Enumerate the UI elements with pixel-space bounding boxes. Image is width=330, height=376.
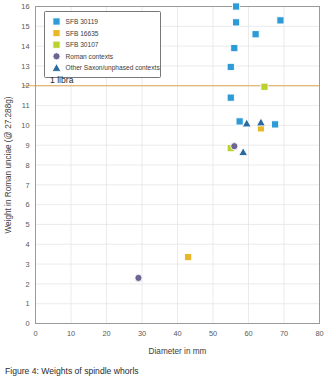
data-point xyxy=(239,148,248,156)
legend-marker xyxy=(53,30,60,37)
svg-text:0: 0 xyxy=(25,319,29,328)
legend-marker xyxy=(53,41,60,48)
svg-text:14: 14 xyxy=(21,42,29,51)
x-axis-title: Diameter in mm xyxy=(149,347,207,356)
data-point xyxy=(135,274,142,281)
svg-text:50: 50 xyxy=(209,329,217,338)
figure-caption: Figure 4: Weights of spindle whorls xyxy=(5,366,139,376)
legend-marker xyxy=(53,53,60,60)
data-point xyxy=(272,121,279,128)
svg-text:70: 70 xyxy=(280,329,288,338)
svg-text:6: 6 xyxy=(25,200,29,209)
svg-text:2: 2 xyxy=(25,280,29,289)
data-point xyxy=(231,45,238,52)
svg-text:3: 3 xyxy=(25,260,29,269)
y-axis-title: Weight in Roman unciae (@ 27.288g) xyxy=(4,96,13,233)
legend-label: SFB 30119 xyxy=(66,18,99,25)
legend-label: Roman contexts xyxy=(66,53,114,60)
data-point xyxy=(236,118,243,125)
svg-text:16: 16 xyxy=(21,2,29,11)
x-axis-tick-labels: 01020304050607080 xyxy=(33,329,323,338)
legend-marker xyxy=(53,18,60,25)
svg-text:80: 80 xyxy=(315,329,323,338)
svg-text:8: 8 xyxy=(25,161,29,170)
data-point xyxy=(232,3,239,10)
svg-text:11: 11 xyxy=(22,101,30,110)
libra-annotation-label: 1 libra xyxy=(50,75,74,85)
data-point xyxy=(227,63,234,70)
svg-text:1: 1 xyxy=(25,299,29,308)
svg-text:13: 13 xyxy=(21,62,29,71)
svg-text:10: 10 xyxy=(67,329,75,338)
svg-text:60: 60 xyxy=(244,329,252,338)
scatter-plot: 01020304050607080 0123456789101112131415… xyxy=(0,0,330,376)
legend-label: SFB 30107 xyxy=(66,41,99,48)
svg-text:0: 0 xyxy=(33,329,37,338)
svg-text:10: 10 xyxy=(21,121,29,130)
data-point xyxy=(277,17,284,24)
svg-text:30: 30 xyxy=(138,329,146,338)
svg-text:7: 7 xyxy=(25,181,29,190)
chart-legend: SFB 30119SFB 16635SFB 30107Roman context… xyxy=(45,12,161,78)
svg-text:4: 4 xyxy=(25,240,29,249)
svg-text:5: 5 xyxy=(25,220,29,229)
data-point xyxy=(231,143,238,150)
svg-text:12: 12 xyxy=(21,81,29,90)
data-point xyxy=(232,19,239,26)
data-point xyxy=(261,83,268,90)
svg-text:15: 15 xyxy=(21,22,29,31)
data-point xyxy=(256,118,265,126)
svg-text:40: 40 xyxy=(173,329,181,338)
legend-label: SFB 16635 xyxy=(66,30,99,37)
svg-text:9: 9 xyxy=(25,141,29,150)
data-point xyxy=(252,31,259,38)
y-axis-tick-labels: 012345678910111213141516 xyxy=(21,2,29,328)
chart-figure: 01020304050607080 0123456789101112131415… xyxy=(0,0,330,376)
data-point xyxy=(185,254,192,261)
data-point xyxy=(227,94,234,101)
svg-text:20: 20 xyxy=(102,329,110,338)
legend-label: Other Saxon/unphased contexts xyxy=(66,64,161,72)
